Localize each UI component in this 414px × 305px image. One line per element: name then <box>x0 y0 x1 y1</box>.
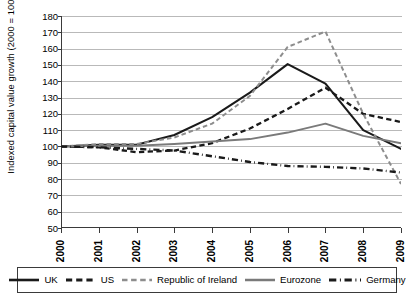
x-axis-tick-label: 2008 <box>358 234 368 268</box>
y-axis-tick-label: 180 <box>33 12 58 21</box>
x-axis-tick <box>250 228 251 233</box>
legend-item-eurozone[interactable]: Eurozone <box>244 275 321 285</box>
x-axis-tick-label: 2002 <box>132 234 142 268</box>
legend-label: UK <box>44 275 57 285</box>
x-axis-tick-label: 2000 <box>56 234 66 268</box>
x-axis-tick-label: 2004 <box>207 234 217 268</box>
x-axis-tick <box>174 228 175 233</box>
y-axis-tick-label: 170 <box>33 28 58 37</box>
x-axis-tick-label: 2005 <box>245 234 255 268</box>
series-line-germany <box>61 146 401 172</box>
x-axis-tick-label: 2003 <box>169 234 179 268</box>
y-axis-tick-label: 60 <box>33 207 58 216</box>
legend-swatch-dashed-gray-line <box>121 276 153 284</box>
x-axis-tick-label: 2001 <box>94 234 104 268</box>
legend-swatch-dashed-black-line <box>65 276 97 284</box>
y-axis-tick-label: 150 <box>33 60 58 69</box>
x-axis-tick <box>61 228 62 233</box>
x-axis-tick <box>325 228 326 233</box>
x-axis-tick-label: 2009 <box>396 234 406 268</box>
legend-swatch-solid-black-line <box>8 276 40 284</box>
y-axis-tick-label: 100 <box>33 142 58 151</box>
x-axis-tick-label: 2007 <box>320 234 330 268</box>
legend-label: Republic of Ireland <box>157 275 237 285</box>
x-axis-tick-labels: 2000200120022003200420052006200720082009 <box>61 234 401 260</box>
x-axis-tick-label: 2006 <box>283 234 293 268</box>
legend-label: Germany <box>366 275 405 285</box>
legend-label: US <box>101 275 114 285</box>
series-line-republic-of-ireland <box>61 31 401 183</box>
y-axis-tick-label: 70 <box>33 191 58 200</box>
y-axis-tick-label: 80 <box>33 175 58 184</box>
x-axis-tick <box>363 228 364 233</box>
y-axis-tick-label: 110 <box>33 126 58 135</box>
y-axis-tick-label: 90 <box>33 158 58 167</box>
y-axis-tick-label: 130 <box>33 93 58 102</box>
chart-figure: Indexed capital value growth (2000 = 100… <box>0 0 414 305</box>
legend-swatch-dashdot-black-line <box>328 276 362 284</box>
legend-label: Eurozone <box>280 275 321 285</box>
series-line-us <box>61 88 401 152</box>
y-axis-tick-label: 140 <box>33 77 58 86</box>
chart-legend: UKUSRepublic of IrelandEurozoneGermany <box>17 267 397 293</box>
legend-item-republic-of-ireland[interactable]: Republic of Ireland <box>121 275 237 285</box>
series-lines-layer <box>61 16 401 228</box>
chart-panel: Indexed capital value growth (2000 = 100… <box>0 0 414 262</box>
series-line-eurozone <box>61 124 401 147</box>
x-axis-tick <box>288 228 289 233</box>
x-axis-tick <box>212 228 213 233</box>
legend-item-germany[interactable]: Germany <box>328 275 405 285</box>
legend-item-us[interactable]: US <box>65 275 114 285</box>
x-axis-tick <box>137 228 138 233</box>
y-axis-tick-label: 50 <box>33 224 58 233</box>
x-axis-tick <box>99 228 100 233</box>
x-axis-tick <box>401 228 402 233</box>
y-axis-tick-label: 120 <box>33 109 58 118</box>
series-line-uk <box>61 64 401 149</box>
y-axis-tick-label: 160 <box>33 44 58 53</box>
legend-swatch-solid-gray-line <box>244 276 276 284</box>
legend-item-uk[interactable]: UK <box>8 275 57 285</box>
